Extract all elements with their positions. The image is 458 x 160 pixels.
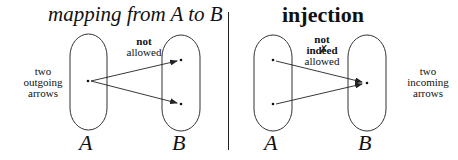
right-title: injection (282, 2, 364, 28)
point-a-left (87, 80, 90, 83)
point-b1-left (180, 59, 183, 62)
right-set-b-label: B (358, 130, 371, 156)
left-annotation-normal: allowed (124, 47, 164, 58)
right-annotation: not indeed ✗ allowed (302, 34, 342, 67)
left-title: mapping from A to B (48, 2, 223, 27)
left-annotation: not allowed (124, 36, 164, 58)
side-note-line: arrows (404, 88, 452, 99)
set-a-right (254, 35, 292, 131)
right-annotation-normal: allowed (302, 56, 342, 67)
arrow-left-lower (91, 81, 177, 103)
set-b-left (162, 35, 200, 131)
left-side-note: two outgoing arrows (20, 66, 66, 99)
point-a2-right (272, 103, 275, 106)
strike-mark-icon: ✗ (319, 44, 328, 55)
point-b2-left (180, 103, 183, 106)
point-b-right (366, 82, 369, 85)
left-set-a-label: A (79, 130, 92, 156)
arrow-right-lower (276, 84, 362, 104)
arrow-left-upper (91, 61, 177, 81)
point-a1-right (272, 59, 275, 62)
right-side-note: two incoming arrows (404, 66, 452, 99)
right-set-a-label: A (264, 130, 277, 156)
side-note-line: arrows (20, 88, 66, 99)
left-set-b-label: B (172, 130, 185, 156)
